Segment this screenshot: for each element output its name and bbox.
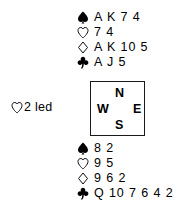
club-icon: [77, 56, 89, 69]
north-club-row: A J 5: [77, 55, 148, 70]
bridge-deal-diagram: A K 7 4 7 4 A K 10 5: [0, 0, 183, 211]
opening-lead-text: 2 led: [24, 100, 53, 115]
heart-icon: [77, 26, 89, 39]
north-hearts: 7 4: [94, 25, 114, 40]
south-spades: 8 2: [94, 141, 114, 156]
spade-icon: [77, 142, 89, 155]
north-clubs: A J 5: [94, 55, 126, 70]
compass-east-label: E: [133, 103, 141, 116]
north-spades: A K 7 4: [94, 10, 141, 25]
heart-icon: [11, 101, 23, 114]
north-diamond-row: A K 10 5: [77, 40, 148, 55]
south-heart-row: 9 5: [77, 156, 174, 171]
north-spade-row: A K 7 4: [77, 10, 148, 25]
south-spade-row: 8 2: [77, 141, 174, 156]
south-clubs: Q 10 7 6 4 2: [94, 186, 174, 201]
compass-box: N W E S: [90, 81, 145, 136]
south-diamond-row: 9 6 2: [77, 171, 174, 186]
diamond-icon: [77, 172, 89, 185]
compass-north-label: N: [115, 87, 124, 100]
south-hand: 8 2 9 5 9 6 2 Q 10 7: [77, 141, 174, 201]
club-icon: [77, 187, 89, 200]
compass-west-label: W: [97, 103, 109, 116]
south-hearts: 9 5: [94, 156, 114, 171]
heart-icon: [77, 157, 89, 170]
north-heart-row: 7 4: [77, 25, 148, 40]
opening-lead-annotation: 2 led: [11, 100, 53, 115]
north-diamonds: A K 10 5: [94, 40, 148, 55]
south-diamonds: 9 6 2: [94, 171, 126, 186]
north-hand: A K 7 4 7 4 A K 10 5: [77, 10, 148, 70]
south-club-row: Q 10 7 6 4 2: [77, 186, 174, 201]
diamond-icon: [77, 41, 89, 54]
spade-icon: [77, 11, 89, 24]
compass-south-label: S: [115, 119, 123, 132]
